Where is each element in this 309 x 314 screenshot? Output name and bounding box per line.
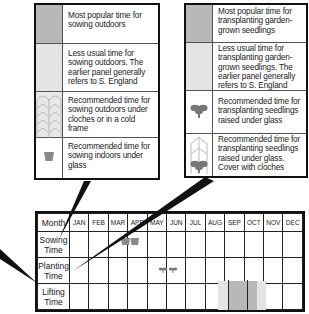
planting-row: PlantingTime [38,258,303,284]
month-dec: DEC [283,214,303,232]
dark-grey-swatch [186,5,213,42]
light-grey-swatch [36,44,63,91]
lifting-label: LiftingTime [38,284,70,310]
lifting-popular-sep-oct [229,281,257,310]
seedling-cloche-icon [186,134,213,176]
legend-item-less-usual-planting: Less usual time for transplanting garden… [186,43,306,91]
legend-text: Most popular time for sowing outdoors [63,5,158,43]
month-mar: MAR [108,214,127,232]
label-line: Planting [38,261,69,271]
legend-item-cloche-sowing: Recommended time for sowing outdoors und… [36,92,158,138]
planting-label: PlantingTime [38,258,70,284]
month-header: Month [38,214,70,232]
sowing-row: SowingTime [38,232,303,258]
sowing-legend: Most popular time for sowing outdoors Le… [34,3,160,180]
planting-legend: Most popular time for transplanting gard… [184,3,308,178]
legend-text: Recommended time for sowing indoors unde… [63,138,158,178]
callout-lifting [0,249,37,283]
month-jun: JUN [167,214,186,232]
month-jan: JAN [70,214,89,232]
month-oct: OCT [244,214,263,232]
month-may: MAY [147,214,166,232]
legend-text: Less usual time for transplanting garden… [213,43,306,90]
pot-icon [36,138,63,178]
month-sep: SEP [225,214,244,232]
legend-text: Most popular time for transplanting gard… [213,5,306,42]
label-line: Lifting [42,287,65,297]
legend-item-popular-sowing: Most popular time for sowing outdoors [36,5,158,44]
sowing-label: SowingTime [38,232,70,258]
cloche-icon [36,92,63,137]
month-feb: FEB [89,214,108,232]
legend-text: Recommended time for sowing outdoors und… [63,92,158,137]
legend-item-popular-planting: Most popular time for transplanting gard… [186,5,306,43]
legend-item-less-usual-sowing: Less usual time for sowing outdoors. The… [36,44,158,92]
label-line: Time [44,297,63,307]
lifting-less-usual-oct [257,281,266,310]
seedling-icon [186,91,213,133]
label-line: Time [44,271,63,281]
month-apr: APR [128,214,147,232]
legend-item-seedling-cloche-planting: Recommended time for transplanting seedl… [186,134,306,176]
lifting-less-usual-aug [218,281,228,310]
legend-text: Less usual time for sowing outdoors. The… [63,44,158,91]
legend-item-indoor-sowing: Recommended time for sowing indoors unde… [36,138,158,178]
legend-text: Recommended time for transplanting seedl… [213,134,306,176]
label-line: Time [44,245,63,255]
label-line: Sowing [40,235,68,245]
month-jul: JUL [186,214,205,232]
dark-grey-swatch [36,5,63,43]
light-grey-swatch [186,43,213,90]
legend-item-seedling-planting: Recommended time for transplanting seedl… [186,91,306,134]
legend-text: Recommended time for transplanting seedl… [213,91,306,133]
month-nov: NOV [264,214,283,232]
month-aug: AUG [205,214,224,232]
